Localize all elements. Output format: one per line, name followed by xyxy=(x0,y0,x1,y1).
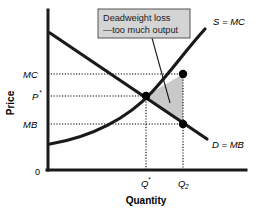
supply-curve-label: S = MC xyxy=(213,16,245,27)
demand-curve-label: D = MB xyxy=(212,139,245,150)
x-axis-title: Quantity xyxy=(126,195,167,206)
origin-label: 0 xyxy=(35,167,40,177)
y-tick-label-pstar: P xyxy=(32,91,39,102)
callout-line-1: Deadweight loss xyxy=(103,13,171,23)
y-tick-label-pstar-superscript: * xyxy=(39,89,42,96)
marginal-cost-at-q2-point xyxy=(179,70,187,78)
y-axis-title: Price xyxy=(5,90,16,115)
figure-container: Deadweight loss —too much output S = MC … xyxy=(0,0,269,211)
marginal-benefit-at-q2-point xyxy=(179,120,187,128)
x-tick-label-q2-subscript: 2 xyxy=(184,183,189,190)
y-tick-label-mc: MC xyxy=(23,69,38,80)
efficient-equilibrium-point xyxy=(142,92,150,100)
x-tick-label-qstar-superscript: * xyxy=(148,176,151,183)
y-tick-label-mb: MB xyxy=(23,119,38,130)
supply-demand-chart: Deadweight loss —too much output S = MC … xyxy=(0,0,269,211)
callout-line-2: —too much output xyxy=(103,25,179,35)
